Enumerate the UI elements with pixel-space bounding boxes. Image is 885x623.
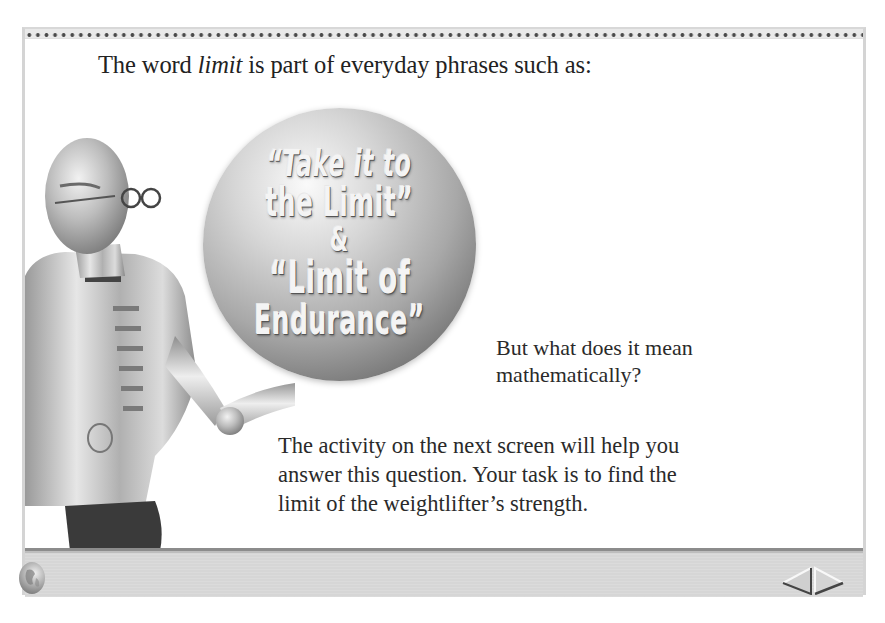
question-line-1: But what does it mean [496,334,693,361]
globe-icon [19,562,45,594]
sphere-line-2: the Limit” [266,182,414,222]
phrases-sphere: “Take it to the Limit” & “Limit of Endur… [203,108,476,381]
heading-suffix: is part of everyday phrases such as: [242,51,591,78]
next-button[interactable] [811,565,845,595]
question-text: But what does it mean mathematically? [496,334,693,388]
bottom-toolbar [25,548,863,597]
left-triangle-arrow-icon [781,565,815,595]
heading-prefix: The word [98,51,198,78]
activity-line-2: answer this question. Your task is to fi… [278,460,858,489]
sphere-line-3: & [330,222,349,256]
activity-line-3: limit of the weightlifter’s strength. [278,489,858,518]
activity-description: The activity on the next screen will hel… [278,431,858,518]
question-line-2: mathematically? [496,361,693,388]
lesson-window: The word limit is part of everyday phras… [22,27,866,595]
right-triangle-arrow-icon [811,565,845,595]
sphere-line-4: “Limit of [269,256,410,300]
heading-emphasis: limit [198,51,242,78]
sphere-line-1: “Take it to [267,144,412,182]
activity-line-1: The activity on the next screen will hel… [278,431,858,460]
previous-button[interactable] [781,565,815,595]
intro-heading: The word limit is part of everyday phras… [98,51,592,79]
sphere-line-5: Endurance” [254,300,425,340]
decorative-dotted-border [25,29,863,39]
globe-button[interactable] [19,562,45,594]
